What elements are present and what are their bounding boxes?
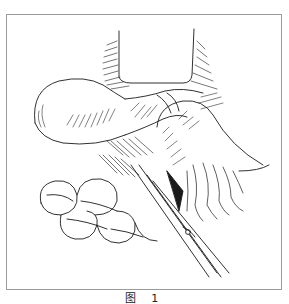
figure-frame — [6, 14, 282, 290]
figure-caption: 图 1 — [0, 293, 289, 304]
surgical-illustration — [7, 15, 283, 291]
